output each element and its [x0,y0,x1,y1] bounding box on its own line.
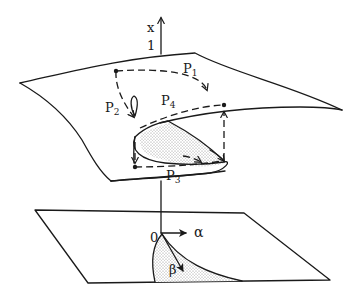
x-tick-one: 1 [147,38,155,53]
x-axis-label: x [147,20,155,35]
alpha-label: α [194,224,204,240]
label-P2-sub: 2 [114,107,120,117]
control-plane [35,210,330,283]
path-P4 [140,105,223,128]
end-point-lower [133,165,137,169]
label-P3-main: P [166,168,175,183]
label-P1: P1 [183,61,197,78]
cusp-catastrophe-diagram: x 1 P1 P2 P4 P3 0 α β [0,0,360,298]
surface-left-edge [20,83,111,181]
end-point-upper [222,103,226,107]
behavior-surface [20,53,342,181]
label-P3-sub: 3 [175,175,181,185]
label-P4-sub: 4 [170,100,176,110]
label-P1-main: P [183,61,192,76]
label-P1-sub: 1 [192,68,198,78]
surface-top-edge [20,53,342,110]
origin-label: 0 [150,230,158,245]
label-P3: P3 [166,168,181,185]
label-P4-main: P [161,93,170,108]
path-P2-loop [131,96,137,116]
label-P4: P4 [161,93,176,110]
label-P2: P2 [105,100,119,117]
beta-label: β [169,262,177,277]
surface-fold-edge [160,107,342,123]
start-point [114,69,118,73]
label-P2-main: P [105,100,114,115]
